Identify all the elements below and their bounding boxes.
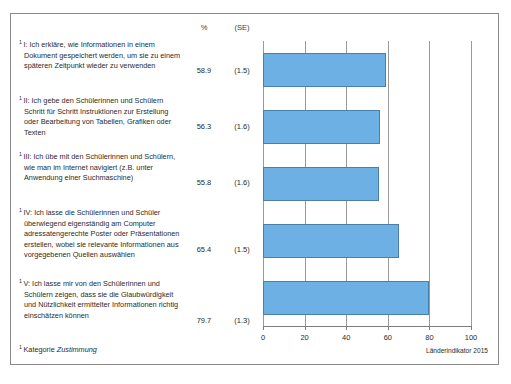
statement-text: 1V: Ich lasse mir von den Schülerinnen u… bbox=[19, 279, 184, 321]
x-gridline bbox=[429, 41, 430, 326]
chart-bar bbox=[263, 110, 380, 144]
source-note: Länderindikator 2015 bbox=[426, 347, 488, 354]
statement-standard-error-value: (1.3) bbox=[225, 316, 259, 325]
chart-bar bbox=[263, 281, 429, 315]
statement-percent-value: 79.7 bbox=[187, 316, 221, 325]
footnote-text: Kategorie bbox=[23, 345, 56, 354]
footnote-marker: 1 bbox=[19, 344, 22, 350]
x-axis-line bbox=[263, 326, 471, 327]
statement-list: 1I: Ich erkläre, wie Informationen in ei… bbox=[11, 36, 261, 321]
x-axis-tick-label: 80 bbox=[417, 333, 441, 342]
footnote-text-italic: Zustimmung bbox=[57, 345, 97, 354]
x-gridline bbox=[471, 41, 472, 326]
x-axis-tick-label: 60 bbox=[376, 333, 400, 342]
x-axis-tick bbox=[471, 326, 472, 330]
x-axis-tick-label: 100 bbox=[459, 333, 483, 342]
bar-chart-plot-area: 020406080100 bbox=[263, 41, 471, 326]
figure-frame: % (SE) 1I: Ich erkläre, wie Informatione… bbox=[10, 13, 499, 365]
statement-footnote-marker: 1 bbox=[19, 278, 22, 284]
footnote: 1Kategorie Zustimmung bbox=[19, 345, 97, 354]
chart-bar bbox=[263, 167, 379, 201]
chart-bar bbox=[263, 224, 399, 258]
x-axis-tick-label: 40 bbox=[334, 333, 358, 342]
column-header-standard-error: (SE) bbox=[225, 23, 259, 32]
statement-row: 1V: Ich lasse mir von den Schülerinnen u… bbox=[11, 36, 261, 321]
chart-bar bbox=[263, 53, 386, 87]
column-header-percent: % bbox=[187, 23, 221, 32]
x-axis-tick-label: 0 bbox=[251, 333, 275, 342]
x-axis-tick-label: 20 bbox=[293, 333, 317, 342]
